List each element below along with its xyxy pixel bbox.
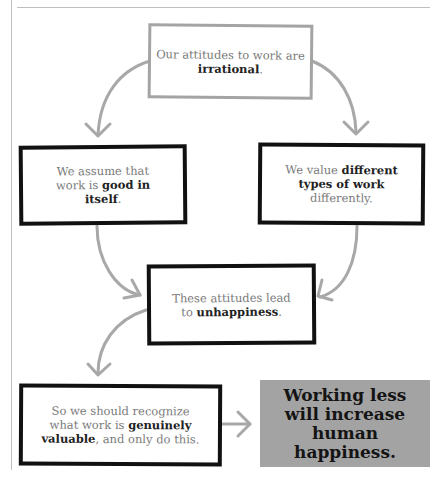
arrow-premise-to-left — [98, 61, 150, 135]
arrow-consequence-to-recommendation — [98, 310, 146, 373]
arrow-premise-to-right — [312, 61, 356, 132]
node-reason-right: We value different types of work differe… — [258, 142, 426, 225]
node-premise: Our attitudes to work are irrational. — [148, 23, 314, 100]
arrow-right-to-consequence — [320, 226, 357, 297]
node-conclusion: Working less will increase human happine… — [260, 380, 430, 467]
node-reason-left: We assume that work is good in itself. — [19, 144, 188, 225]
node-recommendation: So we should recognize what work is genu… — [19, 383, 222, 466]
node-consequence: These attitudes lead to unhappiness. — [147, 263, 317, 345]
